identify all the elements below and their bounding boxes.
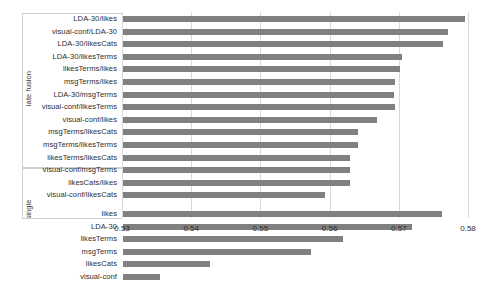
category-label: LDA-30/likesTerms [52, 51, 117, 63]
bar [123, 249, 311, 255]
plot-area [122, 12, 468, 218]
category-label: likesTerms [81, 233, 117, 245]
category-label: likesCats/likes [68, 177, 117, 189]
category-label: likesCats [86, 258, 117, 270]
category-label: visual-conf/likes [63, 114, 117, 126]
bar [123, 66, 400, 72]
bar [123, 142, 358, 148]
bar [123, 104, 395, 110]
category-axis-labels: LDA-30/likesvisual-conf/LDA-30LDA-30/lik… [28, 12, 120, 218]
category-label: msgTerms [82, 246, 117, 258]
value-axis-tick-labels: 0.530.540.550.560.570.58 [122, 218, 468, 238]
category-label: LDA-30 [91, 221, 117, 233]
bar [123, 180, 350, 186]
bar [123, 155, 350, 161]
category-label: msgTerms/likes [64, 76, 117, 88]
category-label: visual-conf/LDA-30 [52, 26, 117, 38]
bar [123, 29, 448, 35]
bar [123, 274, 160, 280]
bar [123, 117, 377, 123]
category-label: likes [102, 208, 117, 220]
bar [123, 192, 325, 198]
bar [123, 16, 465, 22]
bar [123, 129, 358, 135]
x-tick-label: 0.54 [183, 224, 199, 233]
category-label: visual-conf/msgTerms [43, 164, 117, 176]
bar [123, 79, 395, 85]
category-label: visual-conf [80, 271, 117, 283]
category-label: visual-conf/likesTerms [42, 101, 117, 113]
category-label: LDA-30/likesCats [58, 38, 117, 50]
gridline-0.58 [468, 12, 469, 218]
bar [123, 261, 210, 267]
category-label: msgTerms/likesCats [48, 126, 117, 138]
bar [123, 167, 350, 173]
x-tick-label: 0.57 [391, 224, 407, 233]
category-label: visual-conf/likesCats [47, 189, 117, 201]
bar [123, 41, 443, 47]
category-label: likesTerms/likes [63, 63, 117, 75]
x-tick-label: 0.56 [322, 224, 338, 233]
bar [123, 211, 442, 217]
bar [123, 92, 394, 98]
x-tick-label: 0.53 [114, 224, 130, 233]
category-label: likesTerms/likesCats [47, 152, 117, 164]
category-label: msgTerms/likesTerms [43, 139, 117, 151]
bar [123, 54, 402, 60]
category-label: LDA-30/msgTerms [53, 89, 117, 101]
category-label: LDA-30/likes [73, 13, 117, 25]
x-tick-label: 0.55 [253, 224, 269, 233]
x-tick-label: 0.58 [460, 224, 476, 233]
